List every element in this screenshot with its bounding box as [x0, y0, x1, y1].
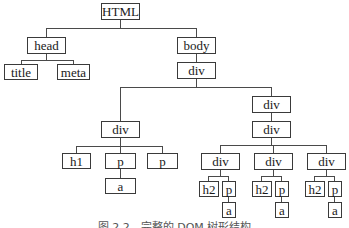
figure-caption: 图 2.2 完整的 DOM 树形结构 — [0, 218, 349, 228]
node-html: HTML — [101, 3, 140, 20]
node-right-div: div — [252, 96, 291, 113]
node-col2-p: p — [275, 181, 289, 197]
node-left-p1: p — [105, 153, 136, 169]
node-left-div: div — [101, 121, 140, 138]
node-col1-div: div — [201, 153, 240, 170]
node-col1-p: p — [222, 181, 236, 197]
node-col3-h2: h2 — [305, 181, 325, 197]
tree-connectors — [0, 0, 349, 228]
node-col2-h2: h2 — [252, 181, 272, 197]
node-left-p2: p — [147, 153, 178, 169]
node-left-p1-a: a — [105, 178, 136, 194]
node-col3-div: div — [307, 153, 346, 170]
node-title: title — [4, 64, 38, 80]
node-col3-a: a — [328, 202, 342, 218]
node-col1-h2: h2 — [199, 181, 219, 197]
node-head: head — [27, 37, 66, 54]
node-col2-div: div — [254, 153, 293, 170]
node-col2-a: a — [275, 202, 289, 218]
node-h1: h1 — [62, 153, 91, 169]
node-right-div-inner: div — [252, 121, 291, 138]
node-meta: meta — [57, 64, 90, 80]
node-col1-a: a — [222, 202, 236, 218]
dom-tree-diagram: HTML head body title meta div div h1 p a… — [0, 0, 349, 228]
node-body: body — [177, 37, 216, 54]
node-body-div: div — [177, 62, 216, 79]
node-col3-p: p — [328, 181, 342, 197]
